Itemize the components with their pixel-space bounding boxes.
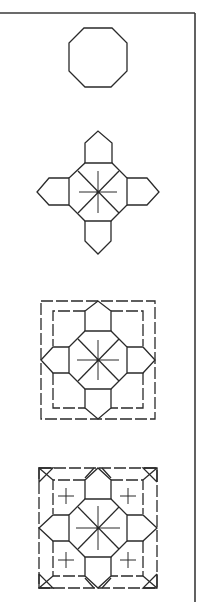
tile-construction-diagram — [0, 0, 199, 602]
step-3-framed-tile — [41, 301, 155, 419]
cross-icon — [120, 488, 136, 504]
step-4-full-tile — [39, 468, 157, 588]
cross-icon — [120, 552, 136, 568]
cross-icon — [58, 552, 74, 568]
step-1-octagon — [69, 28, 127, 87]
step-2-star-octagon — [37, 131, 159, 254]
cross-icon — [58, 488, 74, 504]
